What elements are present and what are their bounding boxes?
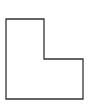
l-shape-outline [6,19,83,99]
l-shape-diagram [0,0,93,103]
